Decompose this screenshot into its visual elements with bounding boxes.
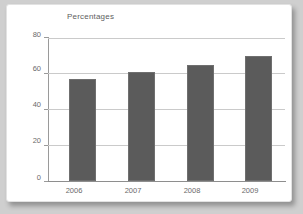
bar-2009[interactable]	[245, 56, 272, 181]
chart-card: Percentages 80 60 40 20 0 200	[6, 4, 292, 202]
plot-area	[48, 38, 285, 181]
y-axis-tick-labels: 80 60 40 20 0	[7, 5, 41, 214]
y-tick-label-40: 40	[33, 100, 41, 109]
x-tick-label-2007: 2007	[113, 186, 153, 195]
x-tick-label-2009: 2009	[230, 186, 270, 195]
y-tick-label-0: 0	[37, 173, 41, 182]
gridline-80	[48, 38, 285, 39]
x-tick-label-2008: 2008	[172, 186, 212, 195]
x-tick-label-2006: 2006	[54, 186, 94, 195]
chart-title: Percentages	[67, 12, 114, 21]
y-tick-label-20: 20	[33, 136, 41, 145]
bar-2007[interactable]	[128, 72, 155, 181]
y-tick-label-80: 80	[33, 30, 41, 39]
screenshot-root: Percentages 80 60 40 20 0 200	[0, 0, 303, 214]
bar-2008[interactable]	[187, 65, 214, 181]
x-axis-line	[48, 181, 286, 182]
y-tick-label-60: 60	[33, 64, 41, 73]
bar-2006[interactable]	[69, 79, 96, 181]
